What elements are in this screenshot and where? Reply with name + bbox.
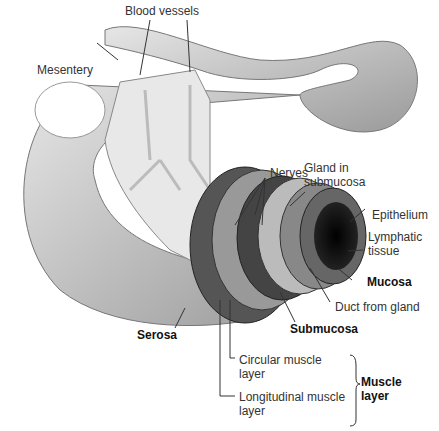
label-mesentery: Mesentery <box>37 63 93 77</box>
label-mucosa: Mucosa <box>367 275 412 289</box>
label-duct: Duct from gland <box>335 300 420 314</box>
lumen <box>314 202 358 270</box>
label-longitudinal-muscle: Longitudinal musclelayer <box>239 390 345 418</box>
label-gland: Gland insubmucosa <box>304 161 365 189</box>
label-epithelium: Epithelium <box>372 208 428 222</box>
label-submucosa: Submucosa <box>290 322 358 336</box>
label-lymphatic: Lymphatictissue <box>368 230 422 258</box>
label-blood-vessels: Blood vessels <box>125 4 199 18</box>
loop-hole <box>35 82 105 138</box>
label-serosa: Serosa <box>137 328 177 342</box>
label-nerves: Nerves <box>270 166 308 180</box>
label-circular-muscle: Circular musclelayer <box>239 353 322 381</box>
label-muscle-layer: Musclelayer <box>361 375 402 403</box>
